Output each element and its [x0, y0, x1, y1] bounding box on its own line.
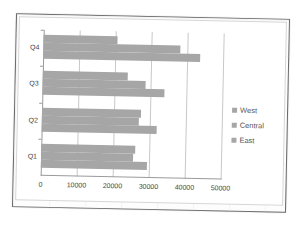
bar-group-q1	[41, 144, 42, 170]
x-label-40000: 40000	[169, 183, 199, 191]
chart-area: Q4 Q3 Q2 Q1 0 10000 20000 30000 40000 50…	[15, 16, 287, 206]
y-label-q3: Q3	[25, 79, 39, 86]
x-label-20000: 20000	[97, 182, 127, 190]
legend-item-west: West	[232, 106, 264, 116]
bar-q3-east	[42, 87, 164, 98]
bar-q2-east	[42, 124, 157, 134]
legend-label: East	[239, 136, 254, 145]
x-label-10000: 10000	[61, 181, 91, 189]
y-tick	[41, 30, 44, 31]
legend-label: West	[240, 106, 257, 115]
plot-area	[41, 30, 225, 180]
bar-q1-east	[41, 160, 147, 170]
x-label-50000: 50000	[205, 184, 235, 192]
gridline	[221, 34, 225, 180]
bar-group-q4	[43, 35, 44, 61]
legend-item-central: Central	[232, 121, 264, 131]
x-axis	[41, 175, 222, 180]
x-label-30000: 30000	[133, 183, 163, 191]
x-label-0: 0	[25, 180, 55, 188]
y-label-q2: Q2	[24, 116, 38, 123]
bar-group-q3	[42, 71, 43, 97]
legend-item-east: East	[231, 136, 263, 146]
y-label-q1: Q1	[23, 152, 37, 159]
bar-group-q2	[42, 108, 43, 134]
legend-swatch-icon	[232, 108, 237, 113]
legend-swatch-icon	[232, 123, 237, 128]
legend: West Central East	[231, 106, 264, 152]
legend-swatch-icon	[231, 138, 236, 143]
y-label-q4: Q4	[25, 43, 39, 50]
y-tick	[38, 139, 41, 140]
y-tick	[39, 103, 42, 104]
y-tick	[40, 66, 43, 67]
legend-label: Central	[240, 121, 264, 131]
printed-sheet: Q4 Q3 Q2 Q1 0 10000 20000 30000 40000 50…	[12, 13, 290, 213]
